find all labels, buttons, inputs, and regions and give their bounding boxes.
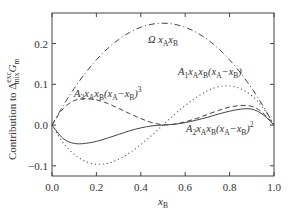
x-tick-label: 0.4 — [134, 181, 148, 193]
y-axis-ticks: −0.10.00.10.2 — [28, 38, 274, 172]
y-tick-label: 0.1 — [34, 78, 48, 90]
x-axis-label: xB — [157, 195, 168, 210]
label-omega: Ω xAxB — [148, 34, 178, 48]
y-tick-label: 0.2 — [34, 38, 48, 50]
y-tick-label: −0.1 — [28, 160, 48, 172]
label-a2: A2xAxB(xA−xB)2 — [185, 120, 254, 137]
label-a3: A3xAxB(xA−xB)3 — [73, 85, 142, 102]
y-tick-label: 0.0 — [34, 119, 48, 131]
x-tick-label: 0.2 — [90, 181, 104, 193]
x-tick-label: 1.0 — [267, 181, 281, 193]
x-tick-label: 0.6 — [178, 181, 192, 193]
chart: 0.00.20.40.60.81.0 −0.10.00.10.2 xB Cont… — [0, 0, 289, 218]
x-tick-label: 0.0 — [45, 181, 59, 193]
x-tick-label: 0.8 — [223, 181, 237, 193]
y-axis-label: Contribution to ΔexcmixGm — [4, 59, 21, 160]
curve-dashed — [52, 99, 274, 126]
label-a1: A1xAxB(xA−xB) — [177, 66, 242, 80]
